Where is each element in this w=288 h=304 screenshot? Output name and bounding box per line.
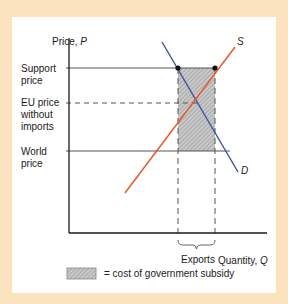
support-price-label: Support price [21,63,56,87]
x-axis-label-var: Q [260,255,268,266]
supply-support-point [212,65,217,70]
exports-brace [178,240,215,249]
demand-curve [162,42,238,172]
exports-label: Exports [181,254,215,266]
world-price-label: World price [21,146,47,170]
demand-support-point [175,65,180,70]
y-axis-label-text: Price, [52,36,80,47]
x-axis-label: Quantity, Q [218,243,268,267]
supply-label: S [237,36,244,48]
demand-label: D [241,165,248,177]
eu-price-label: EU price without imports [21,97,59,133]
y-axis-label: Price, P [52,24,87,48]
legend-text: = cost of government subsidy [104,268,234,280]
x-axis-label-text: Quantity, [218,255,260,266]
y-axis-label-var: P [80,36,87,47]
legend-swatch [67,268,96,279]
